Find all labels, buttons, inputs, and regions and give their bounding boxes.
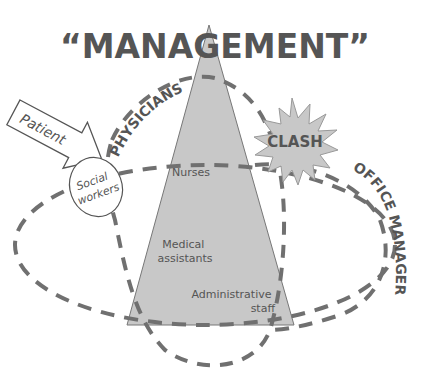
management-title: “MANAGEMENT” bbox=[60, 27, 370, 66]
clash-label: CLASH bbox=[267, 133, 323, 151]
management-pyramid bbox=[127, 25, 294, 325]
physicians-label: PHYSICIANS bbox=[106, 80, 184, 160]
level-medical-assistants: Medical assistants bbox=[157, 238, 212, 265]
diagram-canvas: “MANAGEMENT” PHYSICIANS OFFICE MANAGERS … bbox=[0, 0, 436, 385]
level-nurses: Nurses bbox=[172, 166, 210, 179]
